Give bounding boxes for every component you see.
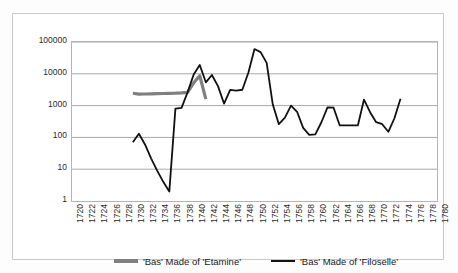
x-axis-tick-label: 1772 (391, 204, 401, 223)
x-axis-tick-label: 1776 (416, 204, 426, 223)
x-axis-tick-label: 1780 (440, 204, 450, 223)
x-axis-tick-label: 1770 (379, 204, 389, 223)
x-axis-tick-label: 1756 (294, 204, 304, 223)
chart-frame: 100000100001000100101 172017221724172617… (12, 13, 444, 260)
x-axis-tick-label: 1720 (75, 204, 85, 223)
x-axis-tick-label: 1778 (428, 204, 438, 223)
chart-screenshot: 100000100001000100101 172017221724172617… (0, 0, 458, 273)
legend-color-swatch (114, 259, 138, 263)
y-axis-tick-label: 100000 (39, 36, 67, 45)
plot-svg (72, 42, 437, 201)
x-axis-tick-label: 1740 (197, 204, 207, 223)
y-axis-tick-label: 1 (62, 195, 67, 204)
x-axis-tick-label: 1774 (404, 204, 414, 223)
x-axis-tick-label: 1748 (245, 204, 255, 223)
x-axis-tick-label: 1730 (136, 204, 146, 223)
x-axis-tick-label: 1726 (112, 204, 122, 223)
series-line (133, 76, 206, 99)
x-axis-tick-label: 1754 (282, 204, 292, 223)
legend-color-swatch (271, 260, 295, 263)
legend-entry[interactable]: 'Bas' Made of 'Filoselle' (271, 256, 398, 267)
x-axis-tick-label: 1738 (185, 204, 195, 223)
x-axis-tick-label: 1736 (172, 204, 182, 223)
y-axis-labels: 100000100001000100101 (13, 14, 67, 234)
chart-legend: 'Bas' Made of 'Etamine''Bas' Made of 'Fi… (71, 252, 441, 270)
x-axis-tick-label: 1746 (233, 204, 243, 223)
x-axis-tick-label: 1766 (355, 204, 365, 223)
y-axis-tick-label: 100 (53, 131, 67, 140)
x-axis-tick-label: 1742 (209, 204, 219, 223)
x-axis-tick-label: 1764 (343, 204, 353, 223)
y-axis-tick-label: 1000 (48, 100, 67, 109)
x-axis-tick-label: 1760 (318, 204, 328, 223)
x-axis-labels: 1720172217241726172817301732173417361738… (71, 204, 438, 252)
x-axis-tick-label: 1758 (306, 204, 316, 223)
x-axis-tick-label: 1768 (367, 204, 377, 223)
x-axis-tick-label: 1750 (258, 204, 268, 223)
x-axis-tick-label: 1762 (331, 204, 341, 223)
x-axis-tick-label: 1744 (221, 204, 231, 223)
y-axis-tick-label: 10000 (43, 68, 67, 77)
x-axis-tick-label: 1752 (270, 204, 280, 223)
series-line (133, 49, 401, 191)
x-axis-tick-label: 1724 (99, 204, 109, 223)
legend-entry[interactable]: 'Bas' Made of 'Etamine' (114, 256, 241, 267)
y-axis-tick-label: 10 (58, 163, 67, 172)
x-axis-tick-label: 1732 (148, 204, 158, 223)
x-axis-tick-label: 1728 (124, 204, 134, 223)
plot-area (71, 41, 438, 202)
x-axis-tick-label: 1734 (160, 204, 170, 223)
legend-label: 'Bas' Made of 'Filoselle' (300, 256, 398, 267)
legend-label: 'Bas' Made of 'Etamine' (143, 256, 241, 267)
x-axis-tick-label: 1722 (87, 204, 97, 223)
